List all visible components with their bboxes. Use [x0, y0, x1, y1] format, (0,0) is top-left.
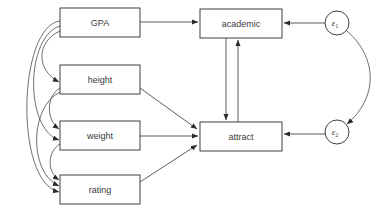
cov-e1-e2-curve	[347, 31, 370, 124]
height-to-attract-path	[140, 88, 197, 129]
academic-label: academic	[222, 19, 261, 29]
rating-to-attract-path	[140, 145, 197, 182]
node-rating[interactable]: rating	[60, 175, 140, 204]
node-academic[interactable]: academic	[200, 9, 282, 38]
node-epsilon-1[interactable]: ε1	[325, 11, 349, 35]
cov-height-weight-curve	[49, 88, 60, 129]
directed-path-group	[140, 22, 325, 182]
epsilon-1-subscript: 1	[335, 23, 338, 29]
node-epsilon-2[interactable]: ε2	[325, 120, 349, 144]
path-diagram-canvas: GPA height weight rating academic attrac…	[0, 0, 388, 213]
rating-label: rating	[89, 185, 112, 195]
node-attract[interactable]: attract	[200, 122, 282, 151]
epsilon-2-subscript: 2	[335, 132, 338, 138]
node-gpa[interactable]: GPA	[60, 8, 140, 37]
covariance-curve-group	[27, 21, 60, 192]
cov-weight-rating-curve	[50, 144, 60, 180]
weight-label: weight	[86, 131, 114, 141]
node-height[interactable]: height	[60, 65, 140, 94]
sem-path-diagram: GPA height weight rating academic attrac…	[0, 0, 388, 213]
attract-label: attract	[228, 132, 254, 142]
gpa-label: GPA	[91, 18, 109, 28]
height-label: height	[88, 75, 113, 85]
node-weight[interactable]: weight	[60, 121, 140, 150]
